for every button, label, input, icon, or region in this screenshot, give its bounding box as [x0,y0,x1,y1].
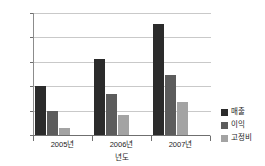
legend-label: 매출 [231,108,245,116]
bar [177,102,188,135]
legend: 매출이익고정비 [221,106,252,145]
legend-item: 이익 [221,119,252,131]
x-tick-label: 2006년 [92,140,152,149]
x-tick-label: 2005년 [33,140,93,149]
legend-item: 매출 [221,106,252,118]
bar [47,111,58,135]
bar-chart: 05001000150020002500 2005년2006년2007년 년도 … [0,0,265,166]
bar-groups [33,13,210,135]
x-axis-title: 년도 [33,153,210,162]
x-axis-line [33,135,210,136]
bar-group [92,13,151,135]
bar [165,75,176,136]
legend-label: 이익 [231,121,245,129]
legend-swatch-icon [221,135,228,142]
legend-swatch-icon [221,122,228,129]
bar [106,94,117,135]
bar [118,115,129,135]
bar-group [33,13,92,135]
x-tick-label: 2007년 [151,140,211,149]
bar [59,128,70,135]
legend-swatch-icon [221,109,228,116]
legend-label: 고정비 [231,134,252,142]
legend-item: 고정비 [221,132,252,144]
bar [35,86,46,135]
bar-group [151,13,210,135]
bar [153,24,164,135]
bar [94,59,105,135]
